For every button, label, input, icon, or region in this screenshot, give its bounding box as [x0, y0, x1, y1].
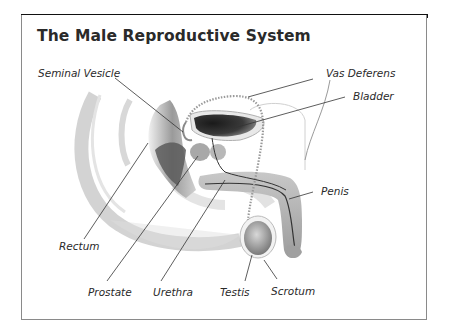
- testis-shape: [240, 216, 276, 258]
- label-bladder: Bladder: [353, 90, 394, 102]
- label-penis: Penis: [321, 185, 349, 197]
- rectum-shape: [148, 100, 196, 198]
- label-testis: Testis: [220, 286, 250, 298]
- label-vas-deferens: Vas Deferens: [326, 67, 395, 79]
- label-seminal-vesicle: Seminal Vesicle: [38, 67, 120, 79]
- label-urethra: Urethra: [153, 286, 193, 298]
- label-rectum: Rectum: [59, 240, 100, 252]
- label-scrotum: Scrotum: [271, 285, 315, 297]
- label-prostate: Prostate: [88, 286, 132, 298]
- bladder-shape: [190, 111, 264, 141]
